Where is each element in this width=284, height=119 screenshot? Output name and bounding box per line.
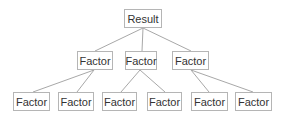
level2-node-factor-1: Factor (13, 92, 50, 111)
level2-node-factor-4: Factor (147, 92, 182, 111)
level2-node-factor-6: Factor (235, 92, 272, 111)
level2-node-factor-5: Factor (191, 92, 228, 111)
link-l1-1-l2-2 (121, 70, 140, 92)
level1-node-factor-3: Factor (172, 51, 209, 70)
level2-node-factor-2: Factor (58, 92, 94, 111)
level2-node-factor-3: Factor (102, 92, 137, 111)
link-root-l1-2 (143, 28, 191, 51)
level1-node-factor-2: Factor (125, 51, 157, 70)
link-root-l1-1 (142, 28, 143, 51)
link-root-l1-0 (95, 28, 143, 51)
link-l1-1-l2-3 (140, 70, 165, 92)
root-node-result: Result (124, 9, 162, 28)
link-l1-0-l2-0 (33, 70, 94, 92)
level1-node-factor-1: Factor (77, 51, 113, 70)
